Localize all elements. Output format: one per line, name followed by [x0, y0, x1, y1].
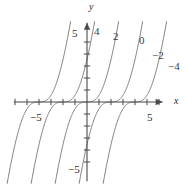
curve-label-neg2: −2 — [152, 50, 164, 61]
y-axis-arrowhead — [84, 23, 90, 30]
x-tick-label-5: 5 — [147, 112, 153, 123]
y-tick-label-neg5: −5 — [68, 164, 80, 175]
x-tick-label-neg5: −5 — [30, 112, 42, 123]
y-axis-label: y — [89, 2, 93, 12]
curve-label-2: 2 — [113, 31, 119, 42]
x-axis-label: x — [174, 96, 178, 106]
curve-label-0: 0 — [139, 35, 145, 46]
coordinate-plot — [0, 0, 185, 185]
curve-label-4: 4 — [94, 26, 100, 37]
y-tick-label-5: 5 — [72, 28, 78, 39]
graph-figure: y x −5 5 5 −5 4 2 0 −2 −4 — [0, 0, 185, 185]
curve-label-neg4: −4 — [168, 61, 180, 72]
